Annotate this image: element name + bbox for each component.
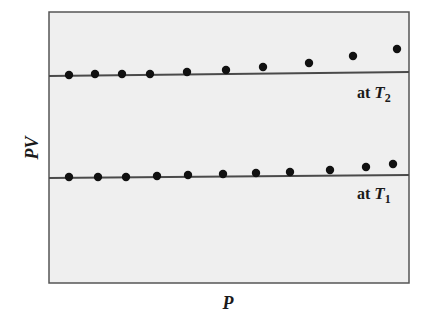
data-point (146, 70, 154, 78)
data-point (65, 173, 73, 181)
data-point (305, 59, 313, 67)
data-point (91, 70, 99, 78)
data-point (393, 45, 401, 53)
x-axis-label: P (222, 293, 235, 313)
data-point (286, 168, 294, 176)
data-point (349, 52, 357, 60)
data-point (259, 63, 267, 71)
y-axis-label: PV (22, 135, 42, 161)
data-point (252, 169, 260, 177)
data-point (326, 166, 334, 174)
data-point (219, 170, 227, 178)
data-point (122, 173, 130, 181)
data-point (362, 163, 370, 171)
pv-vs-p-chart: at T2 at T1 P PV (0, 0, 429, 324)
data-point (389, 160, 397, 168)
data-point (118, 70, 126, 78)
data-point (65, 71, 73, 79)
data-point (222, 66, 230, 74)
data-point (153, 172, 161, 180)
data-point (184, 171, 192, 179)
data-point (183, 68, 191, 76)
data-point (94, 173, 102, 181)
